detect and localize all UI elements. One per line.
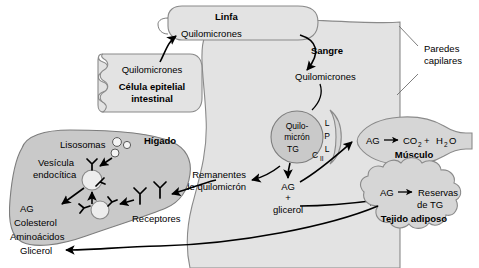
adipose-title: Tejido adiposo xyxy=(381,213,448,224)
endocytic-vesicle xyxy=(82,170,102,190)
intestinal-cell: Quilomicrones Célula epitelial intestina… xyxy=(98,54,202,112)
vesicle-label-line1: Vesícula xyxy=(38,157,75,168)
chylomicron-apoprotein: C xyxy=(312,150,318,160)
capillary-walls-label-line1: Paredes xyxy=(424,43,460,54)
lysosomes-label: Lisosomas xyxy=(60,139,106,150)
chylomicron-particle: Quilo- micrón TG C II xyxy=(271,111,324,163)
liver-title: Hígado xyxy=(144,135,176,146)
liver-product-3: Glicerol xyxy=(20,245,52,256)
adipose-product-line2: de TG xyxy=(417,199,443,210)
liver-product-0: AG xyxy=(20,203,34,214)
lymph-chylomicrons-label: Quilomicrones xyxy=(181,28,242,39)
lymph-vessel: Linfa Quilomicrones xyxy=(158,6,318,40)
adipose-substrate-label: AG xyxy=(380,187,394,198)
lysosome-icon-3 xyxy=(111,149,119,157)
chylomicron-cargo: TG xyxy=(287,144,299,154)
remnants-label-line1: Remanentes xyxy=(192,169,246,180)
lysosome-icon-1 xyxy=(113,138,122,147)
chylomicron-apoprotein-subscript: II xyxy=(320,155,324,162)
lysosome-icon-2 xyxy=(123,141,130,148)
muscle-substrate-label: AG xyxy=(366,135,380,146)
liver-product-1: Colesterol xyxy=(14,217,57,228)
liver-product-2: Aminoácidos xyxy=(10,231,65,242)
lpl-letter-3: L xyxy=(325,144,330,154)
capillary-walls-label-line2: capilares xyxy=(424,55,462,66)
lymph-tube-end xyxy=(158,18,168,34)
capillary-leader-top xyxy=(399,26,418,46)
lipid-metabolism-diagram: Sangre Paredes capilares Linfa Quilomicr… xyxy=(0,0,479,268)
intestinal-cell-title-line1: Célula epitelial xyxy=(119,81,186,92)
diagram-canvas: Sangre Paredes capilares Linfa Quilomicr… xyxy=(0,0,479,268)
chylomicron-name-line2: micrón xyxy=(284,132,310,142)
vesicle-label-line2: endocítica xyxy=(33,169,77,180)
muscle-product-h-subscript: 2 xyxy=(444,141,448,148)
muscle-product-co: CO xyxy=(403,135,417,146)
lpl-letter-1: L xyxy=(325,118,330,128)
products-plus-label: + xyxy=(285,192,291,203)
coated-pit xyxy=(91,201,109,219)
intestinal-cell-title-line2: intestinal xyxy=(131,93,173,104)
products-glicerol-label: glicerol xyxy=(273,204,303,215)
muscle-product-co-subscript: 2 xyxy=(418,141,422,148)
muscle-plus-label: + xyxy=(424,135,430,146)
muscle-product-o: O xyxy=(449,135,456,146)
capillary-walls-group: Paredes capilares xyxy=(397,26,462,95)
products-ag-label: AG xyxy=(281,181,295,192)
intestinal-chylomicrons-label: Quilomicrones xyxy=(122,64,183,75)
blood-chylomicrons-label: Quilomicrones xyxy=(295,71,356,82)
muscle-product-h: H xyxy=(436,135,443,146)
lpl-letter-2: P xyxy=(324,131,330,141)
adipose-product-line1: Reservas xyxy=(418,187,458,198)
receptors-label: Receptores xyxy=(132,213,181,224)
lymph-title: Linfa xyxy=(215,11,238,22)
liver-organ: Hígado Lisosomas Vesícula endocítica Rec… xyxy=(10,130,191,256)
chylomicron-name-line1: Quilo- xyxy=(286,121,309,131)
